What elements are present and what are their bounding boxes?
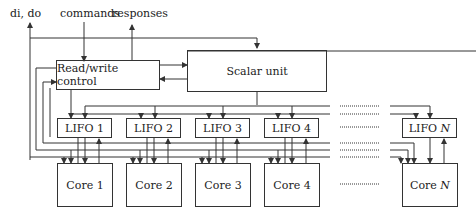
lifo-4: LIFO 4: [264, 118, 319, 138]
core-label: Core: [204, 179, 231, 192]
rw-control-block: Read/write control: [56, 60, 160, 90]
lifo-label: LIFO: [409, 122, 437, 135]
core-label: Core: [66, 179, 93, 192]
lifo-n: LIFO N: [402, 118, 457, 138]
core-index: 1: [97, 179, 104, 192]
core-index: 3: [235, 179, 242, 192]
core-label: Core: [273, 179, 300, 192]
lifo-label: LIFO: [272, 122, 300, 135]
di-do-label: di, do: [10, 7, 41, 20]
lifo-index: 1: [97, 122, 104, 135]
core-label: Core: [410, 179, 437, 192]
core-index: 4: [304, 179, 311, 192]
core-3: Core 3: [195, 163, 251, 207]
commands-label: commands: [60, 7, 120, 20]
scalar-unit-label: Scalar unit: [226, 65, 287, 78]
lifo-2: LIFO 2: [126, 118, 181, 138]
lifo-label: LIFO: [65, 122, 93, 135]
lifo-index: 2: [166, 122, 173, 135]
responses-label: responses: [112, 7, 168, 20]
lifo-index: N: [441, 122, 451, 135]
core-index: 2: [166, 179, 173, 192]
core-index: N: [440, 179, 450, 192]
lifo-1: LIFO 1: [57, 118, 112, 138]
rw-control-label: Read/write control: [57, 62, 159, 88]
scalar-unit-block: Scalar unit: [187, 50, 327, 92]
core-n: Core N: [402, 163, 458, 207]
lifo-label: LIFO: [134, 122, 162, 135]
core-1: Core 1: [57, 163, 113, 207]
lifo-index: 4: [304, 122, 311, 135]
core-2: Core 2: [126, 163, 182, 207]
lifo-3: LIFO 3: [195, 118, 250, 138]
core-4: Core 4: [264, 163, 320, 207]
core-label: Core: [135, 179, 162, 192]
lifo-label: LIFO: [203, 122, 231, 135]
lifo-index: 3: [235, 122, 242, 135]
